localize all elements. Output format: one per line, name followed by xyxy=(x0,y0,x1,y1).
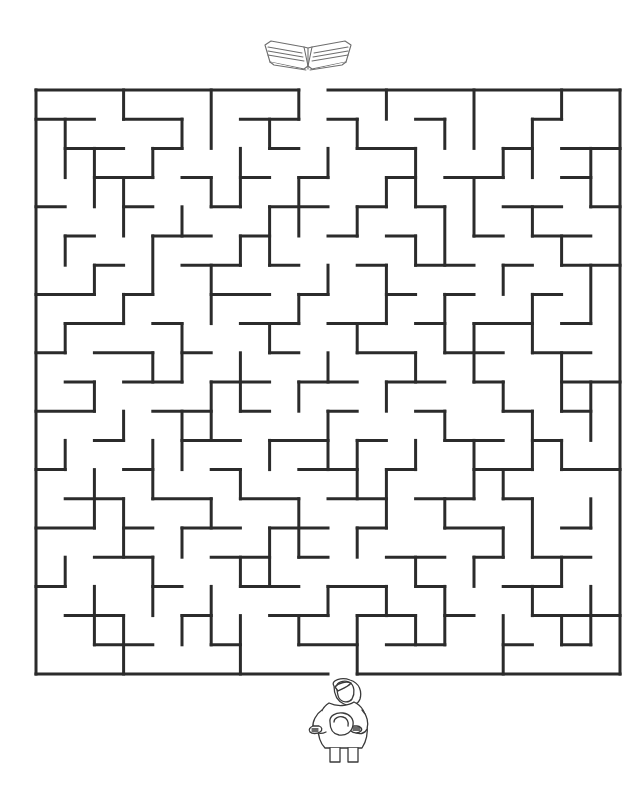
maze-page: Maze Puzzle xyxy=(0,0,644,796)
maze-grid xyxy=(0,0,644,796)
person-reading-icon xyxy=(304,678,386,766)
maze-walls xyxy=(36,90,620,674)
